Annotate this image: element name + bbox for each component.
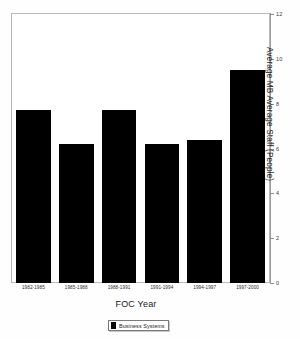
y-tick-label-12: 12: [276, 11, 282, 17]
bar-1985-1988: [59, 144, 94, 283]
x-tick-label-1994-1997: 1994-1997: [183, 285, 226, 290]
y-axis-title: Average MB Average Staff (People): [265, 47, 274, 247]
y-tick-label-6: 6: [276, 146, 279, 152]
y-tick-label-0: 0: [276, 280, 279, 286]
bar-chart-figure: 024681012 Average MB Average Staff (Peop…: [0, 0, 300, 339]
y-tick-label-4: 4: [276, 190, 279, 196]
x-tick-label-1991-1994: 1991-1994: [141, 285, 184, 290]
bars-container: [12, 14, 269, 283]
x-tick-label-1985-1988: 1985-1988: [55, 285, 98, 290]
y-tick-0: [270, 283, 274, 284]
bar-1994-1997: [187, 140, 222, 283]
y-tick-label-2: 2: [276, 235, 279, 241]
bar-1988-1991: [102, 110, 137, 283]
legend-swatch-business-systems: [111, 322, 116, 329]
bar-1991-1994: [145, 144, 180, 283]
legend: Business Systems: [108, 320, 169, 331]
x-axis-title: FOC Year: [0, 299, 272, 309]
y-tick-12: [270, 14, 274, 15]
bar-1997-2000: [230, 70, 265, 283]
legend-label-business-systems: Business Systems: [119, 323, 165, 329]
bar-1982-1985: [16, 110, 51, 283]
y-tick-label-8: 8: [276, 101, 279, 107]
y-tick-label-10: 10: [276, 56, 282, 62]
x-tick-label-1982-1985: 1982-1985: [12, 285, 55, 290]
x-tick-label-1988-1991: 1988-1991: [98, 285, 141, 290]
x-tick-label-1997-2000: 1997-2000: [226, 285, 269, 290]
